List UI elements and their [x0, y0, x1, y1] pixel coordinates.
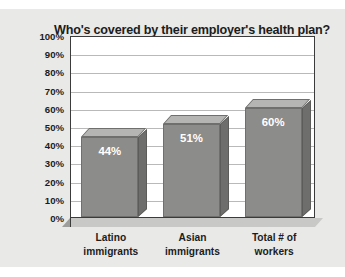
x-category-label-line: Latino	[70, 231, 152, 245]
bar: 60%	[245, 108, 302, 217]
y-tick-label: 90%	[0, 49, 64, 60]
y-tick-label: 100%	[0, 31, 64, 42]
figure-top-edge	[0, 0, 345, 9]
gridline	[71, 73, 314, 74]
bar: 44%	[81, 137, 138, 217]
bar-side-face	[138, 129, 147, 217]
plot-floor	[70, 218, 323, 227]
bar-value-label: 44%	[81, 145, 138, 157]
x-category-label: Total # ofworkers	[233, 231, 315, 258]
bar-side-face	[220, 116, 229, 217]
y-tick-label: 70%	[0, 85, 64, 96]
figure-bottom-edge	[0, 267, 345, 277]
plot-floor-bevel	[315, 218, 323, 227]
y-tick-label: 50%	[0, 122, 64, 133]
x-axis: LatinoimmigrantsAsianimmigrantsTotal # o…	[70, 231, 323, 267]
bar: 51%	[163, 124, 220, 217]
y-tick-label: 10%	[0, 194, 64, 205]
y-tick-label: 30%	[0, 158, 64, 169]
plot-floor-face	[70, 218, 315, 227]
y-tick-label: 80%	[0, 67, 64, 78]
y-axis: 100%90%80%70%60%50%40%30%20%10%0%	[0, 35, 64, 219]
bar-top-face	[81, 128, 146, 137]
x-category-label-line: immigrants	[152, 245, 234, 259]
x-category-label-line: immigrants	[70, 245, 152, 259]
x-category-label-line: workers	[233, 245, 315, 259]
y-tick-label: 0%	[0, 213, 64, 224]
chart-title: Who's covered by their employer's health…	[46, 23, 338, 37]
gridline	[71, 92, 314, 93]
bar-value-label: 60%	[245, 116, 302, 128]
y-tick-label: 40%	[0, 140, 64, 151]
axis-origin-wedge	[62, 218, 70, 227]
y-tick-label: 20%	[0, 176, 64, 187]
bar-top-face	[163, 115, 228, 124]
x-category-label: Latinoimmigrants	[70, 231, 152, 258]
x-category-label-line: Asian	[152, 231, 234, 245]
x-category-label: Asianimmigrants	[152, 231, 234, 258]
plot-area: 44%51%60%	[70, 36, 315, 218]
bar-top-face	[245, 99, 310, 108]
y-tick-label: 60%	[0, 103, 64, 114]
bar-value-label: 51%	[163, 132, 220, 144]
gridline	[71, 55, 314, 56]
chart-figure: Who's covered by their employer's health…	[0, 0, 345, 277]
chart-paper: Who's covered by their employer's health…	[0, 9, 345, 267]
bar-side-face	[302, 100, 311, 217]
x-category-label-line: Total # of	[233, 231, 315, 245]
